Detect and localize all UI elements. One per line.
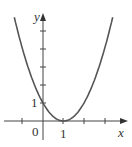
x-tick-label-1: 1 [60, 127, 67, 140]
y-axis-arrow-icon [40, 13, 46, 21]
x-axis-arrow-icon [120, 118, 128, 124]
parabola-curve [14, 17, 112, 121]
y-axis-label: y [34, 10, 40, 23]
y-tick-label-1: 1 [31, 96, 38, 109]
x-axis-label: x [118, 126, 124, 139]
origin-label: 0 [32, 125, 39, 138]
plot-area [0, 0, 132, 147]
